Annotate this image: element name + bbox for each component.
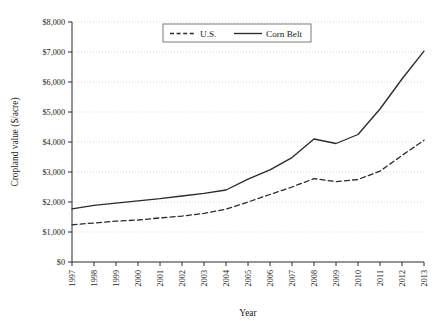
x-tick-label: 2012 [398,270,407,286]
legend-label-corn-belt: Corn Belt [266,29,302,39]
y-axis-title: Cropland value ($/acre) [10,97,21,186]
data-series-group [72,51,424,225]
x-tick-label: 1999 [112,270,121,286]
y-tick-labels-group: $0$1,000$2,000$3,000$4,000$5,000$6,000$7… [42,18,65,267]
x-tick-labels-group: 1997199819992000200120022003200420052006… [68,270,429,286]
x-tick-marks-group [72,262,424,266]
x-axis-title: Year [239,308,257,318]
y-tick-label: $7,000 [42,48,65,57]
gridlines-group [72,22,424,232]
x-tick-label: 2010 [354,270,363,286]
chart-canvas: $0$1,000$2,000$3,000$4,000$5,000$6,000$7… [0,0,442,323]
x-tick-label: 2009 [332,270,341,286]
y-tick-label: $5,000 [42,108,65,117]
x-tick-label: 2005 [244,270,253,286]
x-tick-label: 1997 [68,270,77,286]
x-tick-label: 2000 [134,270,143,286]
y-tick-label: $4,000 [42,138,65,147]
x-tick-label: 2007 [288,270,297,286]
chart-legend: U.S. Corn Belt [163,24,311,42]
y-tick-label: $3,000 [42,168,65,177]
y-tick-marks-group [68,22,72,262]
y-tick-label: $6,000 [42,78,65,87]
x-tick-label: 2006 [266,270,275,286]
x-tick-label: 2002 [178,270,187,286]
x-tick-label: 2004 [222,270,231,286]
x-tick-label: 2003 [200,270,209,286]
y-tick-label: $0 [57,258,65,267]
x-tick-label: 2001 [156,270,165,286]
y-tick-label: $8,000 [42,18,65,27]
series-line-u-s [72,140,424,225]
y-tick-label: $2,000 [42,198,65,207]
x-tick-label: 1998 [90,270,99,286]
legend-label-us: U.S. [200,29,216,39]
cropland-value-line-chart: $0$1,000$2,000$3,000$4,000$5,000$6,000$7… [0,0,442,323]
x-tick-label: 2013 [420,270,429,286]
series-line-corn-belt [72,51,424,209]
x-tick-label: 2011 [376,270,385,286]
x-tick-label: 2008 [310,270,319,286]
y-tick-label: $1,000 [42,228,65,237]
